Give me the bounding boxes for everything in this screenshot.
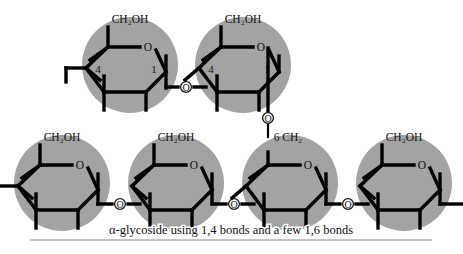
ch2oh-label-top-1: CH₂OH — [112, 13, 149, 25]
ring-oxygen-top-2: O — [257, 41, 265, 53]
ch2oh-label-bottom-4: CH₂OH — [386, 131, 423, 143]
glycosidic-oxygen-bottom-3-4-label: O — [344, 199, 351, 210]
ch2oh-label-top-2: CH₂OH — [225, 13, 262, 25]
glycosidic-oxygen-bottom-2-3-label: O — [230, 199, 237, 210]
glycosidic-oxygen-top-1-2-label: O — [182, 82, 189, 93]
ring-oxygen-bottom-4: O — [418, 159, 426, 171]
carbon-4-label-top-1: 4 — [95, 63, 101, 75]
ring-oxygen-bottom-1: O — [76, 159, 84, 171]
figure-canvas: CH₂OH O 4 1 O CH₂OH O 4 1 — [0, 0, 463, 254]
carbon-1-label-top-1: 1 — [151, 63, 157, 75]
ch2oh-label-bottom-2: CH₂OH — [158, 131, 195, 143]
ring-oxygen-top-1: O — [144, 41, 152, 53]
ch2oh-label-bottom-1: CH₂OH — [44, 131, 81, 143]
ring-oxygen-bottom-3: O — [304, 159, 312, 171]
glycoside-diagram: CH₂OH O 4 1 O CH₂OH O 4 1 — [0, 0, 463, 254]
glycosidic-oxygen-branch-label: O — [264, 113, 271, 124]
ring-oxygen-bottom-2: O — [190, 159, 198, 171]
figure-caption: α-glycoside using 1,4 bonds and a few 1,… — [109, 223, 353, 237]
glycosidic-oxygen-bottom-1-2-label: O — [116, 199, 123, 210]
carbon-4-label-top-2: 4 — [208, 63, 214, 75]
c6-ch2-label-bottom-3: 6 CH₂ — [274, 131, 303, 143]
